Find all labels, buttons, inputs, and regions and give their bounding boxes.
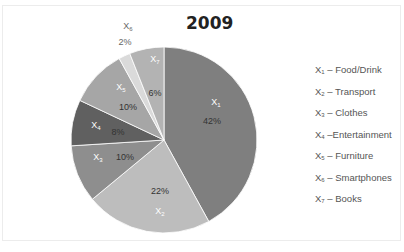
legend-item-1: X1 – Food/Drink <box>315 63 392 85</box>
legend-item-5: X5 – Furniture <box>315 149 392 171</box>
slice-percent-label: 22% <box>151 186 169 196</box>
slice-percent-label: 10% <box>116 152 134 162</box>
legend-label: –Entertainment <box>325 129 392 140</box>
legend-label: – Books <box>325 193 362 204</box>
slice-percent-label: 6% <box>148 88 161 98</box>
legend-label: – Food/Drink <box>325 64 382 75</box>
legend: X1 – Food/DrinkX2 – TransportX3 – Clothe… <box>315 63 392 214</box>
legend-label: – Transport <box>325 86 376 97</box>
slice-percent-label: 2% <box>118 37 131 47</box>
legend-label: – Smartphones <box>325 172 392 183</box>
legend-label: – Clothes <box>325 107 368 118</box>
legend-label: – Furniture <box>325 150 374 161</box>
legend-item-3: X3 – Clothes <box>315 106 392 128</box>
slice-percent-label: 8% <box>111 127 124 137</box>
legend-item-2: X2 – Transport <box>315 85 392 107</box>
legend-item-6: X6 – Smartphones <box>315 171 392 193</box>
slice-percent-label: 42% <box>203 116 221 126</box>
legend-item-7: X7 – Books <box>315 192 392 214</box>
slice-percent-label: 10% <box>119 102 137 112</box>
legend-item-4: X4 –Entertainment <box>315 128 392 150</box>
slice-name-label: X6 <box>123 21 133 32</box>
